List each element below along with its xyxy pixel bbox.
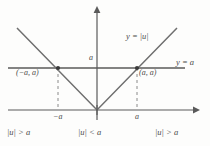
region-label-left: |u| > a xyxy=(7,128,30,137)
region-label-center: |u| < a xyxy=(78,128,101,137)
x-axis xyxy=(8,107,200,114)
x-axis-arrowhead xyxy=(193,107,200,114)
x-tick-label-negative-a: −a xyxy=(53,113,62,121)
horizontal-line-label: y = a xyxy=(176,58,194,67)
x-tick-label-positive-a: a xyxy=(135,113,139,121)
absolute-value-inequality-diagram: y = |u| y = a a (−a, a) (a, a) −a a |u| … xyxy=(0,0,210,146)
region-label-right: |u| > a xyxy=(155,128,178,137)
point-label-right: (a, a) xyxy=(139,69,156,77)
point-label-left: (−a, a) xyxy=(16,69,39,77)
y-axis-arrowhead xyxy=(94,6,101,13)
y-axis-value-label: a xyxy=(89,54,93,62)
y-axis xyxy=(94,6,101,120)
curve-label: y = |u| xyxy=(126,32,149,41)
intersection-point-left xyxy=(56,66,60,70)
